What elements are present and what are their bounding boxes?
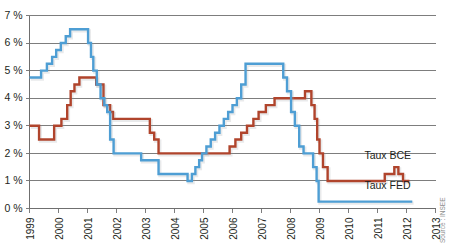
x-tick-label-2000: 2000	[54, 217, 65, 240]
x-tick-label-2003: 2003	[141, 217, 152, 240]
legend-label-taux-fed: Taux FED	[364, 179, 411, 191]
y-tick-label-3: 3 %	[4, 119, 22, 131]
x-tick-label-2005: 2005	[199, 217, 210, 240]
y-tick-label-0: 0 %	[4, 202, 22, 214]
source-attribution: Source : INSEE	[439, 197, 446, 243]
x-tick-label-2008: 2008	[286, 217, 297, 240]
y-axis: 0 %1 %2 %3 %4 %5 %6 %7 %	[4, 9, 29, 214]
series-line-taux-fed	[30, 29, 413, 201]
y-tick-label-4: 4 %	[4, 91, 22, 103]
x-tick-label-2006: 2006	[228, 217, 239, 240]
x-tick-label-2011: 2011	[373, 217, 384, 239]
legend-label-taux-bce: Taux BCE	[364, 149, 411, 161]
x-tick-label-2002: 2002	[112, 217, 123, 240]
x-tick-label-2007: 2007	[257, 217, 268, 240]
y-tick-label-1: 1 %	[4, 174, 22, 186]
y-tick-label-5: 5 %	[4, 64, 22, 76]
x-tick-label-2004: 2004	[170, 217, 181, 240]
chart-legend: Taux BCETaux FED	[364, 149, 411, 191]
x-tick-label-2009: 2009	[315, 217, 326, 240]
y-tick-label-6: 6 %	[4, 36, 22, 48]
x-tick-label-2010: 2010	[344, 217, 355, 240]
series-lines	[30, 29, 414, 203]
chart-container: 0 %1 %2 %3 %4 %5 %6 %7 % 199920002001200…	[0, 0, 449, 247]
y-tick-label-2: 2 %	[4, 147, 22, 159]
series-shadow-taux-fed	[31, 31, 414, 203]
y-tick-label-7: 7 %	[4, 9, 22, 21]
x-tick-label-1999: 1999	[25, 217, 36, 240]
source-text: Source : INSEE	[439, 197, 446, 243]
x-tick-label-2001: 2001	[83, 217, 94, 240]
x-tick-label-2012: 2012	[402, 217, 413, 240]
interest-rate-step-chart: 0 %1 %2 %3 %4 %5 %6 %7 % 199920002001200…	[0, 0, 449, 247]
x-axis: 1999200020012002200320042005200620072008…	[25, 209, 442, 240]
